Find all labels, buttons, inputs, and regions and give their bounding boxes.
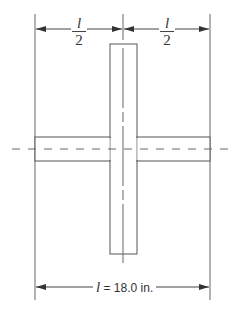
numerator: l: [159, 16, 175, 30]
length-value: = 18.0 in.: [100, 281, 153, 295]
top-left-label: l 2: [71, 16, 87, 47]
top-right-label: l 2: [159, 16, 175, 47]
denominator: 2: [71, 33, 87, 47]
numerator: l: [71, 16, 87, 30]
cross-diagram: [0, 0, 244, 315]
bottom-dimension-label: l = 18.0 in.: [93, 279, 156, 296]
denominator: 2: [159, 33, 175, 47]
